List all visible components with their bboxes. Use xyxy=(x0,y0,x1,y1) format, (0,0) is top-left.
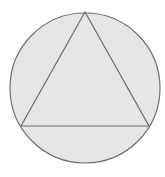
circumscribed-circle xyxy=(10,13,160,163)
diagram-canvas xyxy=(0,0,165,177)
